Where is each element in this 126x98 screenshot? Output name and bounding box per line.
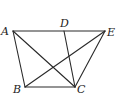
segments	[13, 31, 105, 87]
segment-CE	[75, 31, 105, 87]
geometry-diagram: A D E B C	[0, 0, 126, 98]
label-C: C	[77, 83, 86, 96]
label-A: A	[0, 25, 9, 38]
point-labels: A D E B C	[0, 17, 115, 96]
label-E: E	[106, 26, 115, 39]
segment-AB	[13, 31, 25, 87]
label-B: B	[12, 83, 21, 96]
label-D: D	[59, 17, 69, 30]
